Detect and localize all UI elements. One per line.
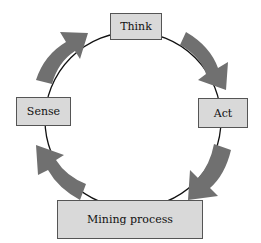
node-act-label: Act <box>214 107 233 120</box>
node-mining-process: Mining process <box>57 200 203 239</box>
arrow-think-to-act-icon <box>180 32 228 90</box>
node-think: Think <box>110 13 162 40</box>
node-sense-label: Sense <box>27 105 60 118</box>
arrow-act-to-mining-icon <box>188 144 231 200</box>
node-mining-process-label: Mining process <box>87 213 173 226</box>
node-sense: Sense <box>16 97 71 126</box>
node-act: Act <box>198 98 248 128</box>
node-think-label: Think <box>120 20 152 33</box>
arrow-mining-to-sense-icon <box>36 145 86 200</box>
arrow-sense-to-think-icon <box>36 32 88 84</box>
